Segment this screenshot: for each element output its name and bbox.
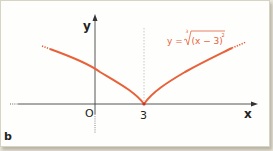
origin-label: O xyxy=(85,107,94,120)
y-axis-label: y xyxy=(83,19,91,33)
equation-root-index: 3 xyxy=(186,29,189,34)
equation-lhs: y = xyxy=(167,36,183,46)
curve-right-dotted xyxy=(232,42,246,48)
equation-exponent: 2 xyxy=(222,32,225,38)
curve-right-branch xyxy=(144,48,232,104)
cusp-point xyxy=(142,102,145,105)
equation-legend: y = 3 (x − 3) 2 xyxy=(167,29,225,46)
curve-left-branch xyxy=(50,49,144,104)
y-axis-arrow-icon xyxy=(93,14,98,21)
panel-label: b xyxy=(4,130,12,143)
x-axis-arrow-icon xyxy=(251,102,258,107)
tick-label-3: 3 xyxy=(140,109,147,122)
graph: y x O 3 b y = 3 (x − 3) 2 xyxy=(0,0,273,151)
curve-left-dotted xyxy=(42,46,50,49)
x-axis-label: x xyxy=(244,107,252,121)
equation-radicand: (x − 3) xyxy=(192,36,223,46)
